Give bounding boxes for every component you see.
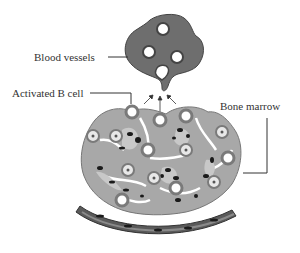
diagram-canvas (0, 0, 300, 253)
vessel-cell (143, 46, 155, 58)
vessel-cell (171, 51, 183, 63)
label-bone-marrow: Bone marrow (220, 100, 280, 112)
blood-vessel-group (125, 14, 203, 90)
label-activated-b-cell: Activated B cell (12, 87, 83, 99)
vessel-cell (157, 23, 169, 35)
bone-marrow-group (81, 106, 241, 215)
label-blood-vessels: Blood vessels (34, 51, 95, 63)
